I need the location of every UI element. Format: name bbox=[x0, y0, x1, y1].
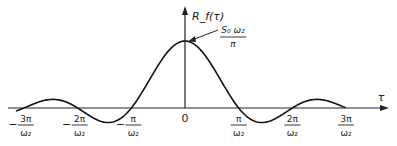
x-tick-numerator: 3π bbox=[20, 114, 32, 124]
peak-pointer-line bbox=[192, 30, 218, 40]
autocorrelation-chart: 3πω₂−2πω₂−πω₂−0πω₂2πω₂3πω₂R_f(τ)τS₀ ω₂π bbox=[0, 0, 397, 146]
y-axis-arrow-icon bbox=[182, 6, 188, 15]
x-tick-denominator: ω₂ bbox=[128, 128, 140, 138]
x-tick-numerator: π bbox=[131, 114, 137, 124]
x-tick-denominator: ω₂ bbox=[20, 128, 32, 138]
x-tick-minus-sign: − bbox=[8, 118, 17, 131]
x-axis-arrow-icon bbox=[380, 105, 389, 111]
x-tick-denominator: ω₂ bbox=[341, 128, 353, 138]
x-tick-denominator: ω₂ bbox=[233, 128, 245, 138]
x-tick-numerator: π bbox=[236, 114, 242, 124]
x-tick-numerator: 2π bbox=[74, 114, 86, 124]
peak-pointer-arrow-icon bbox=[188, 36, 196, 42]
x-tick-minus-sign: − bbox=[116, 118, 125, 131]
peak-label-denominator: π bbox=[230, 39, 236, 49]
sinc-curve bbox=[16, 41, 346, 123]
x-tick-label-zero: 0 bbox=[182, 112, 189, 125]
x-axis-label: τ bbox=[378, 91, 385, 104]
x-tick-denominator: ω₂ bbox=[287, 128, 299, 138]
x-tick-denominator: ω₂ bbox=[74, 128, 86, 138]
x-tick-minus-sign: − bbox=[62, 118, 71, 131]
y-axis-label: R_f(τ) bbox=[192, 10, 224, 23]
x-tick-numerator: 3π bbox=[341, 114, 353, 124]
peak-label-numerator: S₀ ω₂ bbox=[221, 25, 245, 35]
peak-annotation bbox=[188, 30, 218, 42]
x-tick-numerator: 2π bbox=[287, 114, 299, 124]
